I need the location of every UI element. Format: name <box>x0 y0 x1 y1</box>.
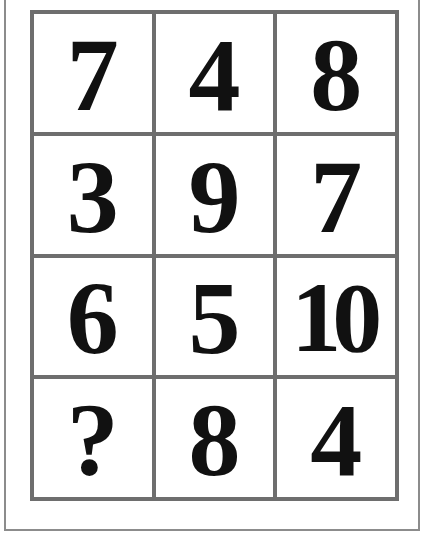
cell-number: 8 <box>310 23 362 127</box>
cell-number: 7 <box>67 23 119 127</box>
grid-cell-r1c3: 8 <box>277 14 395 132</box>
grid-cell-r4c2: 8 <box>156 379 274 497</box>
cell-number: 8 <box>188 388 240 492</box>
grid-cell-r1c2: 4 <box>156 14 274 132</box>
cell-number: 4 <box>310 388 362 492</box>
cell-number: 4 <box>188 23 240 127</box>
cell-number: 6 <box>67 266 119 370</box>
grid-cell-r4c3: 4 <box>277 379 395 497</box>
grid-cell-r3c2: 5 <box>156 258 274 376</box>
grid-cell-r2c3: 7 <box>277 136 395 254</box>
number-grid: 7 4 8 3 9 7 6 5 10 ? 8 4 <box>30 10 399 501</box>
cell-number: 9 <box>188 145 240 249</box>
cell-number: 7 <box>310 145 362 249</box>
cell-number: 3 <box>67 145 119 249</box>
cell-number: 10 <box>291 268 373 368</box>
missing-number-question-mark: ? <box>67 388 119 492</box>
grid-cell-r4c1: ? <box>34 379 152 497</box>
grid-cell-r2c1: 3 <box>34 136 152 254</box>
grid-cell-r1c1: 7 <box>34 14 152 132</box>
cell-number: 5 <box>188 266 240 370</box>
grid-cell-r3c3: 10 <box>277 258 395 376</box>
grid-cell-r2c2: 9 <box>156 136 274 254</box>
grid-cell-r3c1: 6 <box>34 258 152 376</box>
